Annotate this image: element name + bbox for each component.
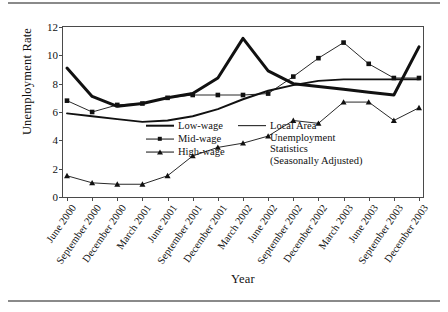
y-tick-label: 4 — [53, 135, 59, 146]
y-tick-mark — [59, 197, 63, 198]
legend-swatch-laus-icon — [238, 120, 266, 131]
x-tick-mark — [67, 197, 68, 201]
series-marker — [190, 93, 195, 98]
y-tick-label: 6 — [53, 107, 59, 118]
unemployment-rate-line-chart: Unemployment Rate 024681012 June 2000Sep… — [0, 0, 448, 312]
series-marker — [115, 103, 120, 108]
plot-area: 024681012 June 2000September 2000Decembe… — [62, 26, 424, 198]
legend-column-left: Low-wage Mid-wage High-wage — [146, 120, 238, 168]
series-marker — [90, 110, 95, 115]
x-tick-mark — [293, 197, 294, 201]
series-marker — [316, 56, 321, 61]
y-axis-title: Unemployment Rate — [20, 0, 35, 172]
series-marker — [391, 118, 397, 123]
series-marker — [241, 93, 246, 98]
legend-item-mid-wage: Mid-wage — [146, 133, 238, 145]
legend-label-laus-line-1: Local Area — [270, 120, 362, 132]
x-tick-mark — [268, 197, 269, 201]
series-marker — [291, 74, 296, 79]
series-marker — [65, 98, 70, 103]
x-tick-mark — [369, 197, 370, 201]
x-tick-mark — [243, 197, 244, 201]
legend-label-laus-line-3: Statistics — [270, 143, 362, 155]
legend-label-high-wage: High-wage — [178, 146, 225, 158]
legend-label-low-wage: Low-wage — [178, 120, 223, 132]
series-marker — [165, 96, 170, 101]
y-tick-label: 0 — [53, 192, 59, 203]
y-tick-label: 8 — [53, 78, 59, 89]
x-tick-mark — [117, 197, 118, 201]
y-tick-label: 2 — [53, 163, 59, 174]
legend-column-right: Local Area Unemployment Statistics (Seas… — [238, 120, 358, 168]
series-marker — [64, 173, 70, 178]
legend-label-laus-line-4: (Seasonally Adjusted) — [270, 155, 362, 167]
series-plot-lines — [63, 27, 423, 197]
x-tick-mark — [344, 197, 345, 201]
series-line-mid-wage — [67, 43, 419, 112]
x-tick-mark — [394, 197, 395, 201]
y-tick-label: 10 — [47, 50, 58, 61]
x-tick-mark — [168, 197, 169, 201]
x-axis-title: Year — [62, 272, 424, 287]
legend-item-low-wage: Low-wage — [146, 120, 238, 132]
series-marker — [140, 101, 145, 106]
series-marker — [366, 62, 371, 67]
legend-item-laus: Local Area Unemployment Statistics (Seas… — [270, 120, 362, 166]
x-tick-mark — [318, 197, 319, 201]
x-tick-mark — [142, 197, 143, 201]
x-tick-mark — [419, 197, 420, 201]
legend-swatch-low-wage-icon — [146, 120, 174, 131]
series-marker — [341, 40, 346, 45]
y-tick-label: 12 — [47, 22, 58, 33]
series-line-local — [67, 79, 419, 122]
legend-swatch-mid-wage-icon — [146, 133, 174, 144]
legend-label-laus-line-2: Unemployment — [270, 132, 362, 144]
series-marker — [416, 105, 422, 110]
legend-swatch-high-wage-icon — [146, 146, 174, 157]
series-marker — [216, 93, 221, 98]
legend-item-high-wage: High-wage — [146, 146, 238, 158]
x-tick-mark — [218, 197, 219, 201]
x-tick-mark — [193, 197, 194, 201]
legend-label-mid-wage: Mid-wage — [178, 133, 221, 145]
chart-legend: Low-wage Mid-wage High-wage Local Area U… — [146, 120, 358, 168]
x-tick-mark — [92, 197, 93, 201]
